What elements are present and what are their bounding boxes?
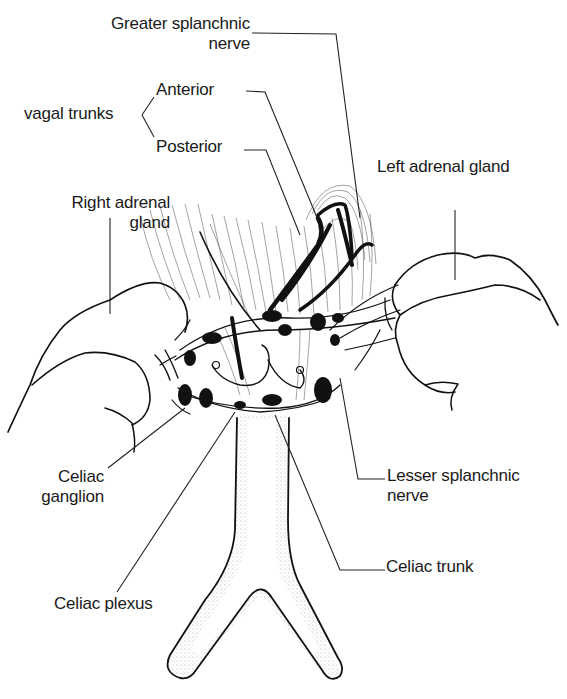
leader-posterior-vagal	[244, 150, 300, 235]
celiac-trunk-vessel	[168, 415, 343, 680]
label-celiac-ganglion-line2: ganglion	[24, 487, 104, 507]
label-celiac-trunk-text: Celiac trunk	[386, 557, 473, 576]
left-adrenal-gland	[385, 253, 558, 410]
leader-anterior-vagal	[246, 91, 318, 220]
label-celiac-plexus: Celiac plexus	[54, 594, 153, 614]
label-anterior-vagal: Anterior	[156, 80, 214, 100]
label-greater-splanchnic: Greater splanchnic nerve	[70, 14, 250, 54]
label-right-adrenal-line2: gland	[50, 213, 170, 233]
label-posterior-vagal: Posterior	[156, 137, 222, 157]
leader-celiac-ganglion	[108, 408, 185, 468]
leader-vagal-brace-bottom	[142, 115, 154, 137]
leader-lesser-splanchnic	[340, 378, 385, 479]
label-left-adrenal: Left adrenal gland	[377, 157, 510, 177]
label-greater-splanchnic-line1: Greater splanchnic	[70, 14, 250, 34]
leader-celiac-trunk	[275, 415, 385, 570]
label-celiac-ganglion-line1: Celiac	[24, 467, 104, 487]
label-celiac-trunk: Celiac trunk	[386, 557, 473, 577]
label-right-adrenal: Right adrenal gland	[50, 193, 170, 233]
label-lesser-splanchnic-line1: Lesser splanchnic	[387, 466, 520, 486]
label-greater-splanchnic-line2: nerve	[70, 34, 250, 54]
label-anterior-text: Anterior	[156, 80, 214, 99]
celiac-plexus-network	[160, 285, 400, 414]
leader-vagal-brace-top	[142, 97, 154, 115]
label-celiac-plexus-text: Celiac plexus	[54, 594, 153, 613]
label-left-adrenal-text: Left adrenal gland	[377, 157, 510, 176]
label-vagal-trunks: vagal trunks	[24, 104, 113, 124]
label-right-adrenal-line1: Right adrenal	[50, 193, 170, 213]
label-vagal-trunks-text: vagal trunks	[24, 104, 113, 123]
label-lesser-splanchnic-line2: nerve	[387, 486, 520, 506]
label-posterior-text: Posterior	[156, 137, 222, 156]
label-lesser-splanchnic: Lesser splanchnic nerve	[387, 466, 520, 506]
label-celiac-ganglion: Celiac ganglion	[24, 467, 104, 507]
